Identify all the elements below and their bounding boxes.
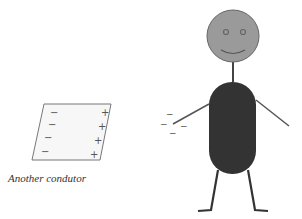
- minus-charge-icon: −: [48, 119, 56, 130]
- left-arm: [173, 104, 209, 124]
- plus-charge-icon: +: [98, 121, 106, 132]
- plus-charge-icon: +: [94, 135, 102, 146]
- minus-charge-icon: −: [44, 132, 52, 143]
- left-leg: [198, 170, 218, 211]
- plus-charge-icon: +: [90, 149, 98, 160]
- conductor: − − − − + + + +: [32, 104, 111, 160]
- right-arm: [256, 100, 289, 126]
- stick-person: [173, 10, 289, 211]
- right-leg: [248, 170, 268, 211]
- minus-charge-icon: −: [50, 107, 58, 118]
- minus-charge-icon: −: [41, 146, 49, 157]
- torso: [209, 82, 256, 174]
- minus-charge-icon: −: [169, 128, 177, 138]
- diagram-canvas: − − − − + + + + − − − −: [0, 0, 302, 219]
- minus-charge-icon: −: [180, 121, 188, 131]
- plus-charge-icon: +: [101, 107, 109, 118]
- head: [207, 10, 259, 62]
- minus-charge-icon: −: [166, 109, 174, 119]
- conductor-caption: Another condutor: [8, 172, 86, 184]
- minus-charge-icon: −: [160, 119, 168, 129]
